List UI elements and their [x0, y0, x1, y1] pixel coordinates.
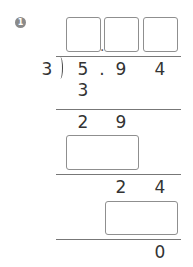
quotient-box-tenths[interactable]	[104, 17, 139, 52]
step2-subtract-box[interactable]	[66, 135, 139, 170]
dividend-digit-hundredths: 4	[150, 59, 170, 79]
step2-line	[56, 174, 181, 175]
quotient-box-hundredths[interactable]	[143, 17, 178, 52]
quotient-box-ones[interactable]	[66, 17, 101, 52]
dividend-digit-tenths: 9	[111, 59, 131, 79]
final-remainder: 0	[150, 242, 170, 262]
division-bar	[56, 56, 181, 57]
step2-remainder-digit2: 9	[111, 112, 131, 132]
step3-subtract-box[interactable]	[105, 201, 178, 235]
step2-remainder-digit1: 2	[73, 112, 93, 132]
step1-line	[56, 109, 181, 110]
problem-number-badge: 1	[15, 17, 26, 28]
dividend-decimal-point: .	[92, 59, 112, 79]
step3-remainder-digit1: 2	[111, 177, 131, 197]
step3-line	[56, 239, 181, 240]
step1-subtract: 3	[73, 80, 93, 100]
divisor: 3	[37, 59, 57, 79]
dividend-digit-ones: 5	[73, 59, 93, 79]
step3-remainder-digit2: 4	[150, 177, 170, 197]
